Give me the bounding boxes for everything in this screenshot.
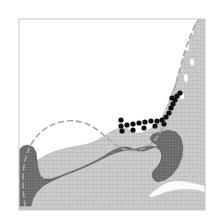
land-texture-dot	[63, 200, 65, 202]
land-texture-dot	[199, 173, 201, 175]
land-texture-dot	[39, 195, 41, 197]
land-texture-dot	[197, 147, 199, 149]
land-texture-dot	[127, 190, 129, 192]
land-texture-dot	[175, 203, 177, 205]
transect-dot	[152, 123, 157, 128]
transect-dot	[141, 125, 146, 130]
land-texture-dot	[67, 206, 69, 208]
land-texture-dot	[189, 67, 191, 69]
land-texture-dot	[139, 204, 141, 206]
land-texture-dot	[191, 199, 193, 201]
land-texture-dot	[143, 188, 145, 190]
transect-dot	[118, 117, 123, 122]
land-texture-dot	[121, 202, 123, 204]
land-texture-dot	[193, 51, 195, 53]
land-texture-dot	[54, 189, 56, 191]
transect-dot	[136, 120, 141, 125]
land-texture-dot	[119, 159, 121, 161]
land-texture-dot	[185, 39, 187, 41]
land-texture-dot	[181, 193, 183, 195]
coast-inlet	[184, 74, 188, 82]
land-texture-dot	[103, 205, 105, 207]
land-texture-dot	[192, 165, 194, 167]
land-texture-dot	[197, 83, 199, 85]
map-canvas	[0, 0, 218, 224]
land-texture-dot	[100, 177, 102, 179]
land-texture-dot	[131, 173, 133, 175]
transect-dot	[177, 90, 182, 95]
transect-dot	[130, 121, 135, 126]
land-texture-dot	[135, 161, 137, 163]
land-texture-dot	[49, 199, 51, 201]
land-texture-dot	[85, 203, 87, 205]
land-texture-dot	[197, 195, 199, 197]
land-texture-dot	[195, 115, 197, 117]
transect-dot	[148, 118, 153, 123]
transect-dot	[142, 119, 147, 124]
land-texture-dot	[157, 201, 159, 203]
coast-inlet	[190, 59, 194, 66]
map-figure: Coastal bathymetry and transect map	[0, 0, 218, 224]
transect-dot	[130, 127, 135, 132]
land-texture-dot	[47, 204, 49, 206]
land-texture-dot	[95, 194, 97, 196]
transect-dot	[169, 95, 174, 100]
land-texture-dot	[69, 184, 71, 186]
transect-dot	[119, 128, 124, 133]
land-texture-dot	[103, 165, 105, 167]
transect-dot	[166, 110, 171, 115]
land-texture-dot	[85, 180, 87, 182]
land-texture-dot	[71, 174, 73, 176]
transect-dot	[161, 121, 166, 126]
transect-dot	[118, 123, 123, 128]
land-texture-dot	[185, 131, 187, 133]
land-texture-dot	[111, 192, 113, 194]
transect-dot	[154, 118, 159, 123]
land-texture-dot	[116, 175, 118, 177]
land-texture-dot	[79, 197, 81, 199]
land-texture-dot	[165, 197, 167, 199]
land-texture-dot	[87, 169, 89, 171]
land-texture-dot	[147, 171, 149, 173]
land-texture-dot	[187, 99, 189, 101]
land-texture-dot	[189, 159, 191, 161]
transect-dot	[124, 122, 129, 127]
